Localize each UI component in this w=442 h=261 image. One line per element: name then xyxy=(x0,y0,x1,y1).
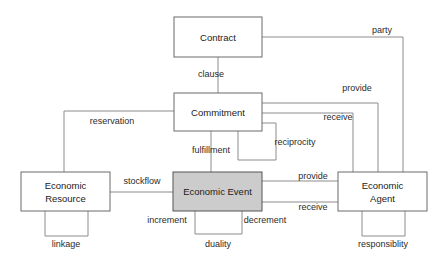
rel-label-increment: increment xyxy=(147,215,187,225)
rel-label-linkage: linkage xyxy=(52,239,81,249)
connector-linkage xyxy=(45,211,88,236)
rel-label-provide-commitment: provide xyxy=(342,83,372,93)
rel-label-fulfillment: fulfillment xyxy=(192,145,231,155)
rel-label-clause: clause xyxy=(198,69,224,79)
entity-contract[interactable]: Contract xyxy=(174,17,262,57)
entity-commitment-label: Commitment xyxy=(191,107,245,118)
entity-economic-agent-box[interactable] xyxy=(338,172,427,211)
rel-label-duality: duality xyxy=(205,239,232,249)
entity-economic-resource-label-line1: Economic xyxy=(45,180,87,191)
rel-label-party: party xyxy=(372,25,393,35)
rea-diagram-canvas: Contract Commitment Economic Event Econo… xyxy=(0,0,442,261)
rel-label-receive-event: receive xyxy=(298,202,327,212)
rel-label-responsiblity: responsiblity xyxy=(358,239,409,249)
relationship-label-layer: clause party reservation fulfillment rec… xyxy=(52,25,409,249)
diagram-svg: Contract Commitment Economic Event Econo… xyxy=(0,0,442,261)
entity-economic-agent-label-line2: Agent xyxy=(370,193,395,204)
entity-economic-agent-label-line1: Economic xyxy=(362,180,404,191)
entity-economic-resource[interactable]: Economic Resource xyxy=(21,172,110,211)
rel-label-stockflow: stockflow xyxy=(123,176,161,186)
rel-label-provide-event: provide xyxy=(298,171,328,181)
entity-economic-resource-box[interactable] xyxy=(21,172,110,211)
entity-economic-event-label: Economic Event xyxy=(183,186,252,197)
rel-label-reservation: reservation xyxy=(90,116,135,126)
entity-economic-agent[interactable]: Economic Agent xyxy=(338,172,427,211)
connector-party xyxy=(262,37,403,172)
entity-economic-resource-label-line2: Resource xyxy=(45,193,86,204)
entity-commitment[interactable]: Commitment xyxy=(174,93,262,131)
connector-responsiblity xyxy=(362,211,405,236)
rel-label-receive-commitment: receive xyxy=(323,112,352,122)
connector-duality xyxy=(195,211,242,234)
rel-label-decrement: decrement xyxy=(244,215,287,225)
rel-label-reciprocity: reciprocity xyxy=(274,137,316,147)
entity-economic-event[interactable]: Economic Event xyxy=(173,172,262,211)
entity-contract-label: Contract xyxy=(200,32,236,43)
entity-layer: Contract Commitment Economic Event Econo… xyxy=(21,17,427,211)
